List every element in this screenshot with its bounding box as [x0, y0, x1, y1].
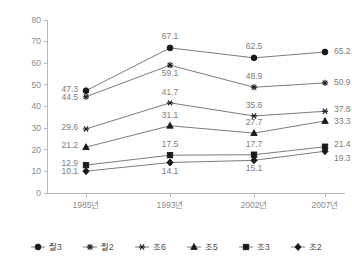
- legend-item-label: 줱2: [101, 242, 114, 252]
- data-point-marker: [167, 100, 173, 105]
- legend: 줱3줱2초6초5초3초2: [31, 242, 322, 252]
- series-4: 21.231.127.733.3: [61, 110, 350, 150]
- y-tick-label: 60: [32, 58, 42, 68]
- legend-item-label: 초3: [257, 242, 270, 252]
- data-point-marker: [322, 80, 328, 86]
- legend-item-초3[interactable]: 초3: [239, 242, 270, 252]
- data-point-label: 15.1: [246, 163, 263, 173]
- y-tick-label: 0: [36, 188, 41, 198]
- data-point-label: 37.8: [334, 104, 351, 114]
- series-line: [86, 121, 325, 147]
- data-point-marker: [167, 45, 173, 51]
- data-point-marker: [83, 126, 89, 131]
- data-point-marker: [83, 88, 89, 94]
- y-tick-label: 70: [32, 36, 42, 46]
- data-point-label: 31.1: [162, 110, 179, 120]
- data-point-marker: [322, 109, 328, 114]
- y-tick-label: 80: [32, 15, 42, 25]
- legend-item-초5[interactable]: 초5: [187, 242, 218, 252]
- data-point-label: 44.5: [61, 92, 78, 102]
- data-point-label: 35.6: [246, 100, 263, 110]
- data-point-label: 33.3: [334, 116, 351, 126]
- data-point-label: 17.7: [246, 139, 263, 149]
- y-tick-label: 10: [32, 166, 42, 176]
- data-point-label: 62.5: [246, 41, 263, 51]
- legend-item-label: 초5: [205, 242, 218, 252]
- series-line: [86, 103, 325, 129]
- chart-canvas: 010203040506070801985년1993년2002년2007년47.…: [0, 0, 352, 265]
- data-point-marker: [83, 94, 89, 100]
- legend-item-label: 초2: [309, 242, 322, 252]
- data-point-label: 48.9: [246, 71, 263, 81]
- data-point-label: 29.6: [61, 122, 78, 132]
- data-point-label: 14.1: [162, 166, 179, 176]
- x-category-label: 2007년: [312, 200, 339, 210]
- x-category-label: 1985년: [73, 200, 100, 210]
- legend-item-줱3[interactable]: 줱3: [31, 242, 62, 252]
- data-point-label: 41.7: [162, 87, 179, 97]
- data-point-marker: [251, 84, 257, 90]
- data-point-marker: [167, 122, 173, 128]
- y-tick-label: 40: [32, 101, 42, 111]
- data-point-marker: [251, 55, 257, 61]
- data-point-label: 27.7: [246, 117, 263, 127]
- data-point-label: 21.4: [334, 139, 351, 149]
- data-point-label: 67.1: [162, 31, 179, 41]
- legend-item-줱2[interactable]: 줱2: [83, 242, 114, 252]
- series-2: 44.559.148.950.9: [61, 62, 350, 102]
- data-point-label: 10.1: [61, 166, 78, 176]
- data-point-label: 59.1: [162, 68, 179, 78]
- data-point-marker: [83, 168, 89, 175]
- data-point-marker: [167, 152, 172, 157]
- series-6: 10.114.115.119.3: [61, 148, 350, 176]
- series-line: [86, 65, 325, 97]
- y-axis-ticks: 01020304050607080: [32, 15, 47, 198]
- x-axis-labels: 1985년1993년2002년2007년: [73, 193, 339, 210]
- legend-item-초2[interactable]: 초2: [291, 242, 322, 252]
- series-line: [86, 48, 325, 91]
- series-3: 29.641.735.637.8: [61, 87, 350, 132]
- data-point-label: 19.3: [334, 153, 351, 163]
- line-chart: 010203040506070801985년1993년2002년2007년47.…: [0, 0, 352, 265]
- legend-item-label: 줱3: [49, 242, 62, 252]
- data-point-label: 17.5: [162, 139, 179, 149]
- data-point-marker: [322, 49, 328, 55]
- legend-item-label: 초6: [153, 242, 166, 252]
- data-point-label: 21.2: [61, 140, 78, 150]
- y-tick-label: 20: [32, 145, 42, 155]
- data-point-label: 65.2: [334, 46, 351, 56]
- y-tick-label: 30: [32, 123, 42, 133]
- x-category-label: 2002년: [241, 200, 268, 210]
- y-tick-label: 50: [32, 80, 42, 90]
- data-point-marker: [322, 118, 328, 124]
- data-point-label: 50.9: [334, 77, 351, 87]
- x-category-label: 1993년: [157, 200, 184, 210]
- legend-item-초6[interactable]: 초6: [135, 242, 166, 252]
